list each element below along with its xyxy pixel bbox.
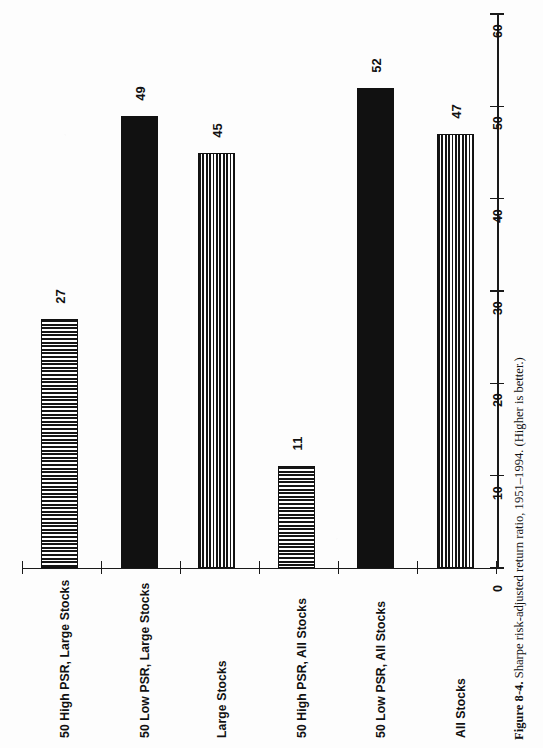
bar-5: [437, 134, 474, 568]
category-label-3: 50 High PSR, All Stocks: [295, 598, 309, 738]
category-tick-6: [496, 561, 497, 574]
category-tick-5: [417, 561, 418, 574]
bar-chart: 0102030405060 274945115247 50 High PSR, …: [0, 0, 543, 748]
category-label-2: Large Stocks: [215, 660, 229, 738]
category-label-0: 50 High PSR, Large Stocks: [58, 580, 72, 738]
figure-page: 0102030405060 274945115247 50 High PSR, …: [0, 0, 543, 748]
bar-value-label-4: 52: [368, 55, 383, 75]
figure-caption-text: Sharpe risk-adjusted return ratio, 1951–…: [512, 357, 526, 681]
category-tick-4: [338, 561, 339, 574]
bar-value-label-5: 47: [448, 102, 463, 122]
category-label-5: All Stocks: [454, 678, 468, 738]
category-tick-3: [259, 561, 260, 574]
bar-value-label-0: 27: [52, 286, 67, 306]
value-tick-label-50: 50: [491, 96, 505, 130]
bar-4: [357, 88, 394, 568]
bar-value-label-3: 11: [289, 434, 304, 454]
bar-3: [278, 466, 315, 568]
category-tick-0: [22, 561, 23, 574]
value-tick-label-60: 60: [491, 4, 505, 38]
category-tick-1: [101, 561, 102, 574]
bar-0: [41, 319, 78, 568]
category-label-4: 50 Low PSR, All Stocks: [374, 601, 388, 738]
value-tick-label-40: 40: [491, 189, 505, 223]
bar-1: [121, 116, 158, 568]
value-tick-label-30: 30: [491, 281, 505, 315]
value-tick-label-10: 10: [491, 466, 505, 500]
bar-value-label-1: 49: [132, 83, 147, 103]
category-label-1: 50 Low PSR, Large Stocks: [138, 583, 152, 738]
bar-2: [198, 153, 235, 569]
value-tick-label-0: 0: [491, 558, 505, 592]
figure-caption: Figure 8-4. Sharpe risk-adjusted return …: [512, 357, 527, 740]
bar-value-label-2: 45: [209, 120, 224, 140]
value-tick-label-20: 20: [491, 373, 505, 407]
category-tick-2: [180, 561, 181, 574]
figure-caption-lead: Figure 8-4.: [512, 681, 526, 740]
